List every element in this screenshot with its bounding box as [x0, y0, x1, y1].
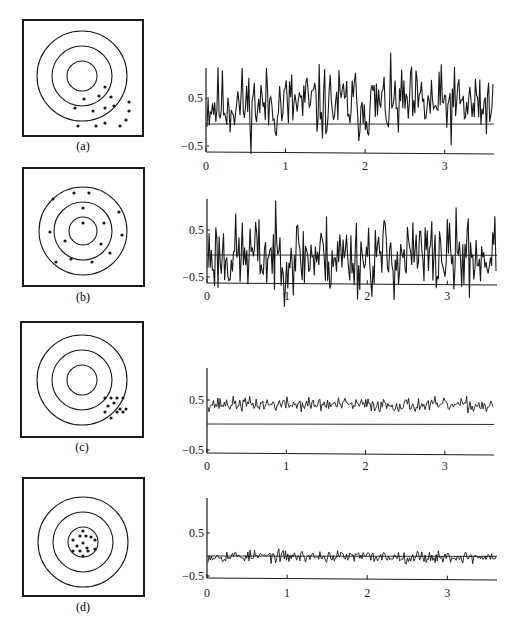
shot-dot — [81, 206, 84, 209]
shot-dot — [71, 549, 74, 552]
target-diagram-d — [23, 478, 144, 596]
shot-dot — [124, 407, 127, 410]
panel-a: (a) 0.5−0.50123 — [23, 20, 494, 173]
target-frame — [23, 168, 144, 286]
shot-dot — [118, 407, 121, 410]
shot-dot — [86, 549, 89, 552]
x-tick-label: 1 — [283, 459, 289, 473]
shot-dot — [71, 538, 74, 541]
shot-dot — [112, 401, 115, 404]
shot-dot — [121, 396, 124, 399]
shot-dot — [99, 242, 102, 245]
x-tick-label: 0 — [204, 459, 210, 473]
shot-dot — [51, 197, 54, 200]
target-frame — [23, 20, 143, 136]
shot-dot — [69, 257, 72, 260]
x-tick-label: 2 — [364, 586, 370, 600]
shot-dot — [87, 191, 90, 194]
x-tick-label: 0 — [203, 159, 209, 173]
target-ring — [37, 335, 127, 425]
y-tick-label: −0.5 — [182, 443, 204, 457]
shot-dot — [81, 541, 84, 544]
x-tick-label: 0 — [204, 289, 210, 303]
signal-trace — [208, 396, 493, 413]
shot-dot — [108, 251, 111, 254]
x-axis — [207, 453, 494, 455]
shot-dot — [93, 547, 96, 550]
shot-dot — [75, 544, 78, 547]
shot-dot — [127, 100, 130, 103]
x-tick-label: 3 — [444, 289, 450, 303]
x-axis — [206, 152, 494, 154]
shot-dot — [121, 410, 124, 413]
panel-label-a: (a) — [76, 139, 89, 153]
shot-dot — [109, 416, 112, 419]
shot-dot — [115, 410, 118, 413]
shot-dot — [112, 104, 115, 107]
panel-c: (c) 0.5−0.50123 — [21, 322, 494, 473]
shot-dot — [84, 534, 87, 537]
signal-plot-b: 0.5−0.50123 — [182, 199, 497, 307]
shot-dot — [118, 124, 121, 127]
shot-dot — [78, 534, 81, 537]
y-tick-label: 0.5 — [188, 91, 203, 105]
shot-dot — [72, 191, 75, 194]
shot-dot — [85, 546, 88, 549]
shot-dot — [89, 535, 92, 538]
x-tick-label: 2 — [362, 159, 368, 173]
shot-dot — [120, 233, 123, 236]
shot-dot — [78, 549, 81, 552]
y-tick-label: −0.5 — [182, 569, 204, 583]
shot-dot — [103, 106, 106, 109]
y-tick-label: 0.5 — [189, 223, 204, 237]
shot-dot — [117, 210, 120, 213]
y-tick-label: 0.5 — [189, 393, 204, 407]
x-tick-label: 1 — [284, 586, 290, 600]
shot-dot — [81, 554, 84, 557]
shot-dot — [124, 118, 127, 121]
panel-b: (b) 0.5−0.50123 — [23, 168, 497, 307]
shot-dot — [103, 121, 106, 124]
shot-dot — [90, 260, 93, 263]
x-tick-label: 2 — [364, 289, 370, 303]
shot-dot — [82, 97, 85, 100]
shot-dot — [103, 396, 106, 399]
signal-trace — [207, 53, 493, 154]
shot-dot — [103, 410, 106, 413]
shot-dot — [115, 396, 118, 399]
target-ring — [67, 61, 97, 91]
x-tick-label: 1 — [283, 159, 289, 173]
signal-plot-d: 0.5−0.50123 — [182, 498, 497, 600]
signal-plot-a: 0.5−0.50123 — [181, 53, 494, 173]
shot-dot — [81, 221, 84, 224]
panel-d: (d) 0.5−0.50123 — [23, 478, 497, 614]
y-tick-label: −0.5 — [181, 139, 203, 153]
shot-dot — [106, 404, 109, 407]
shot-dot — [91, 109, 94, 112]
shot-dot — [97, 94, 100, 97]
shot-dot — [109, 95, 112, 98]
shot-dot — [103, 85, 106, 88]
target-ring — [52, 350, 112, 410]
x-tick-label: 3 — [444, 586, 450, 600]
shot-dot — [127, 109, 130, 112]
target-frame — [23, 478, 144, 596]
target-frame — [21, 322, 143, 437]
shot-dot — [102, 221, 105, 224]
panel-label-b: (b) — [76, 290, 90, 304]
signal-trace — [208, 200, 496, 306]
shot-dot — [54, 260, 57, 263]
x-axis — [207, 578, 497, 580]
target-diagram-c — [21, 322, 143, 437]
target-diagram-a — [23, 20, 143, 136]
shot-dot — [63, 239, 66, 242]
shot-dot — [73, 106, 76, 109]
x-tick-label: 0 — [204, 586, 210, 600]
target-ring — [54, 202, 112, 260]
x-tick-label: 2 — [363, 459, 369, 473]
shot-dot — [93, 538, 96, 541]
signal-plot-c: 0.5−0.50123 — [182, 368, 494, 473]
panel-label-d: (d) — [76, 600, 90, 614]
shot-dot — [76, 124, 79, 127]
shot-dot — [109, 396, 112, 399]
